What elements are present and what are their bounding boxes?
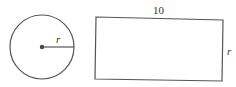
rectangle-length-label: 10 [153,4,165,16]
diagram-svg: r 10 r [0,0,236,87]
diagram: r 10 r [0,0,236,87]
radius-label: r [56,33,61,45]
rectangle-width-label: r [227,45,232,57]
rectangle-outline [95,17,223,81]
circle-figure: r [10,15,74,79]
rectangle-figure: 10 r [95,4,232,81]
